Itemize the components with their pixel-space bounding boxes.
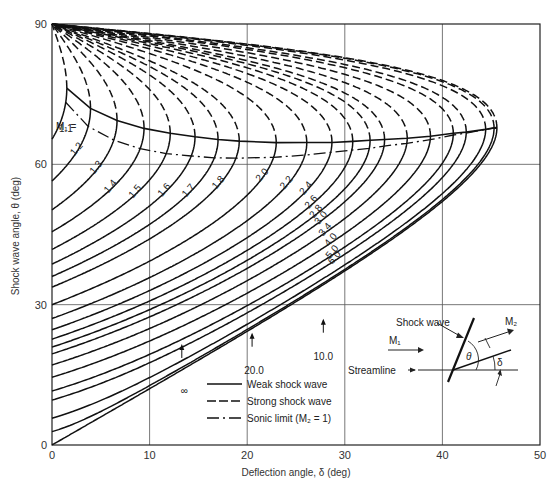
delta-symbol: δ [497,357,503,368]
mach-curve-label: 20.0 [244,365,264,376]
mach-curve-label: 1.5 [126,182,144,200]
x-tick-label: 40 [436,449,448,461]
x-tick-label: 30 [339,449,351,461]
strong-shock-curve [52,24,170,133]
streamline-arrow-icon [410,368,416,373]
max-deflection-locus [67,88,497,142]
mach-curve-label: 1.6 [155,180,173,198]
y-tick-label: 0 [41,439,47,451]
streamline-label: Streamline [348,365,396,376]
y-axis-title: Shock wave angle, θ (deg) [10,177,21,295]
shock-line [448,318,474,382]
mach-curve-label: 10.0 [314,351,334,362]
mach-curve-label: 2.2 [277,173,295,191]
mach-curve-label: 1.7 [179,181,197,199]
axis-ticks: 010203040500306090 [35,18,546,461]
x-tick-label: 50 [534,449,546,461]
weak-shock-curve [52,128,144,231]
legend: Weak shock wave Strong shock wave Sonic … [207,379,332,424]
strong-shock-curve [52,24,407,138]
pointer-arrow-icon [250,333,255,339]
shock-wave-label: Shock wave [396,317,450,328]
mach-prefix-label: M₁ = [56,121,76,132]
shock-geometry-inset: Shock wave M₁ M₂ Streamline θ δ [348,316,518,386]
loci-lines [66,88,497,158]
mach-curve-label: 1.4 [101,177,119,195]
sonic-limit-locus [66,102,497,158]
strong-shock-curve [52,24,497,128]
y-tick-label: 60 [35,158,47,170]
weak-shock-curve [52,138,407,365]
x-tick-label: 0 [49,449,55,461]
legend-sonic-label: Sonic limit (M₂ = 1) [247,413,331,424]
m2-label: M₂ [505,316,517,327]
mach-curve-label: ∞ [181,385,188,396]
mach-curve-label: 1.8 [209,173,227,191]
legend-strong-label: Strong shock wave [247,396,332,407]
m2-arrow-icon [507,329,514,336]
pointer-arrow-icon [321,319,326,325]
strong-shock-curve [52,24,453,133]
strong-shock-curve [52,24,67,88]
x-tick-label: 10 [143,449,155,461]
mach-curve-label: 1.3 [87,158,105,176]
weak-shock-curve [52,136,430,377]
theta-symbol: θ [466,351,472,362]
shock-pointer-arrow-icon [456,333,464,339]
y-tick-label: 90 [35,18,47,30]
oblique-shock-chart: 1.11.21.31.41.51.61.71.82.02.22.42.62.83… [0,0,559,492]
x-axis-title: Deflection angle, δ (deg) [242,467,351,478]
y-tick-label: 30 [35,299,47,311]
x-tick-label: 20 [241,449,253,461]
delta-arc [493,356,495,370]
legend-weak-label: Weak shock wave [247,379,328,390]
m1-label: M₁ [389,335,401,346]
m1-arrow-icon [418,347,424,353]
